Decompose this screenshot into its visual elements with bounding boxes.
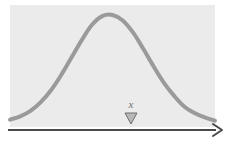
normal-distribution-figure: x <box>0 0 227 143</box>
x-variable-label: x <box>124 99 138 110</box>
figure-canvas <box>0 0 227 143</box>
